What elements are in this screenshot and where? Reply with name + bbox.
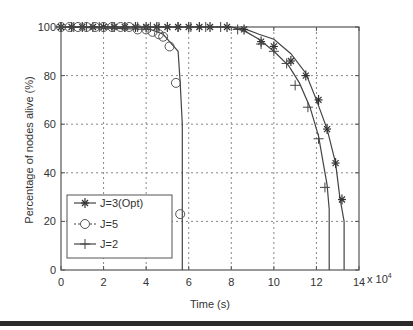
x-tick-label: 14 xyxy=(353,276,365,288)
legend-label: J=5 xyxy=(100,218,118,230)
legend-label: J=3(Opt) xyxy=(100,197,143,209)
legend-label: J=2 xyxy=(100,238,118,250)
x-tick-label: 4 xyxy=(143,276,149,288)
y-tick-label: 0 xyxy=(50,264,56,276)
x-tick-label: 12 xyxy=(310,276,322,288)
x-axis-label: Time (s) xyxy=(190,298,230,310)
y-tick-label: 100 xyxy=(38,21,56,33)
legend: J=3(Opt)J=5J=2 xyxy=(67,195,172,258)
x-multiplier-label: x 104 xyxy=(367,272,392,285)
x-tick-label: 2 xyxy=(101,276,107,288)
x-tick-label: 0 xyxy=(58,276,64,288)
bottom-border-bar xyxy=(0,321,413,326)
x-tick-label: 10 xyxy=(268,276,280,288)
y-tick-label: 20 xyxy=(44,215,56,227)
x-tick-label: 6 xyxy=(186,276,192,288)
line-chart: 02468101214020406080100 J=3(Opt)J=5J=2 T… xyxy=(0,0,413,330)
y-tick-label: 40 xyxy=(44,167,56,179)
y-axis-label: Percentage of nodes alive (%) xyxy=(23,76,35,223)
y-tick-label: 80 xyxy=(44,70,56,82)
x-tick-label: 8 xyxy=(228,276,234,288)
y-tick-label: 60 xyxy=(44,118,56,130)
